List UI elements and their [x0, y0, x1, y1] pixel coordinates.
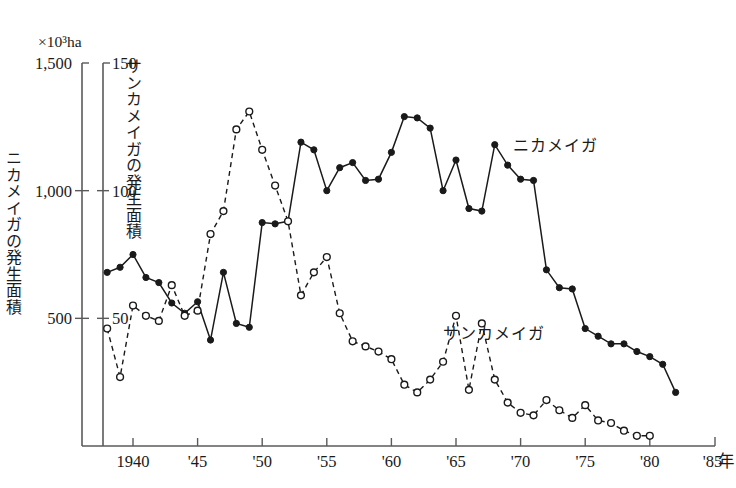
series-sankameiga — [104, 108, 653, 439]
data-point — [505, 162, 511, 168]
data-point — [492, 142, 498, 148]
data-point — [168, 282, 175, 289]
data-point — [155, 317, 162, 324]
data-point — [621, 427, 628, 434]
data-point — [246, 324, 252, 330]
data-point — [375, 348, 382, 355]
data-point — [427, 125, 433, 131]
series-label-sankameiga: サンカメイガ — [443, 320, 545, 344]
data-point — [414, 115, 420, 121]
data-point — [104, 269, 110, 275]
data-point — [556, 285, 562, 291]
data-point — [582, 402, 589, 409]
x-axis-unit-label: 年 — [718, 452, 735, 471]
data-point — [194, 307, 201, 314]
data-point — [582, 325, 588, 331]
data-point — [414, 389, 421, 396]
data-point — [517, 409, 524, 416]
data-point — [181, 312, 188, 319]
data-point — [220, 269, 226, 275]
data-point — [337, 165, 343, 171]
right-axis-title: サンカメイガの発生面積 — [124, 58, 140, 240]
data-point — [466, 205, 472, 211]
data-point — [349, 338, 356, 345]
x-tick-label-2: '50 — [252, 452, 271, 471]
data-point — [479, 208, 485, 214]
series-label-nikameiga: ニカメイガ — [513, 132, 598, 156]
data-point — [401, 381, 408, 388]
data-point — [207, 337, 213, 343]
data-point — [362, 343, 369, 350]
data-point — [233, 320, 239, 326]
data-point — [608, 420, 615, 427]
data-point — [595, 333, 601, 339]
data-point — [336, 310, 343, 317]
data-point — [350, 159, 356, 165]
y-tick-label-left-2: 500 — [47, 309, 72, 328]
data-point — [324, 188, 330, 194]
data-point — [453, 312, 460, 319]
chart-canvas: 1,5001,000500150100501940'45'50'55'60'65… — [0, 0, 736, 488]
data-point — [259, 146, 266, 153]
x-tick-label-1: '45 — [188, 452, 207, 471]
data-point — [117, 264, 123, 270]
data-point — [130, 251, 136, 257]
data-point — [647, 354, 653, 360]
data-point — [401, 114, 407, 120]
x-tick-label-7: '75 — [575, 452, 594, 471]
data-point — [272, 221, 278, 227]
chart-figure: 1,5001,000500150100501940'45'50'55'60'65… — [0, 0, 736, 488]
y-tick-label-left-0: 1,500 — [35, 54, 72, 73]
data-point — [246, 108, 253, 115]
x-tick-label-5: '65 — [446, 452, 465, 471]
series-line — [107, 117, 675, 393]
data-point — [440, 358, 447, 365]
data-point — [375, 176, 381, 182]
y-axis-unit-label: ×10³ha — [38, 33, 82, 50]
data-point — [491, 376, 498, 383]
data-point — [117, 374, 124, 381]
data-point — [207, 231, 214, 238]
data-point — [634, 348, 640, 354]
data-point — [646, 432, 653, 439]
data-point — [130, 302, 137, 309]
data-point — [104, 325, 111, 332]
data-point — [608, 341, 614, 347]
data-point — [660, 361, 666, 367]
data-point — [298, 292, 305, 299]
data-point — [427, 376, 434, 383]
data-point — [323, 254, 330, 261]
data-point — [310, 269, 317, 276]
data-point — [569, 415, 576, 422]
data-point — [440, 188, 446, 194]
data-point — [233, 126, 240, 133]
data-point — [453, 157, 459, 163]
data-point — [530, 177, 536, 183]
data-point — [285, 218, 292, 225]
data-point — [633, 432, 640, 439]
data-point — [220, 208, 227, 215]
y-tick-label-right-2: 50 — [112, 309, 129, 328]
x-tick-label-3: '55 — [317, 452, 336, 471]
series-line — [107, 112, 650, 436]
data-point — [388, 356, 395, 363]
data-point — [621, 341, 627, 347]
data-point — [259, 219, 265, 225]
y-tick-label-left-1: 1,000 — [35, 182, 72, 201]
data-point — [169, 300, 175, 306]
data-point — [556, 407, 563, 414]
data-point — [569, 286, 575, 292]
x-tick-label-6: '70 — [511, 452, 530, 471]
data-point — [362, 177, 368, 183]
data-point — [530, 412, 537, 419]
x-tick-label-0: 1940 — [117, 452, 150, 471]
data-point — [673, 389, 679, 395]
data-point — [543, 397, 550, 404]
data-point — [143, 274, 149, 280]
x-tick-label-8: '80 — [640, 452, 659, 471]
x-tick-label-4: '60 — [382, 452, 401, 471]
data-point — [388, 149, 394, 155]
data-point — [272, 182, 279, 189]
data-point — [298, 139, 304, 145]
data-point — [143, 312, 150, 319]
